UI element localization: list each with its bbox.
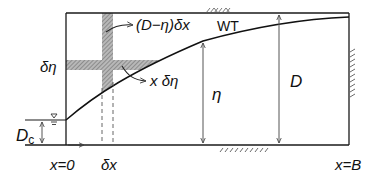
label-vertical-strip-expr: (D−η)δx	[136, 16, 190, 33]
label-x-end: x=B	[334, 156, 361, 173]
water-surface-icon	[51, 114, 57, 125]
label-water-table: WT	[217, 18, 239, 34]
impermeable-wall-hatch	[350, 49, 355, 97]
horizontal-strip	[66, 60, 186, 70]
label-critical-depth: Dc	[16, 126, 34, 147]
groundwater-diagram: δη (D−η)δx x δη WT η D Dc x=0 δx x=B	[0, 0, 380, 176]
vertical-strip	[102, 13, 113, 145]
impermeable-base-hatch	[220, 148, 268, 152]
label-eta: η	[212, 85, 221, 104]
label-delta-eta: δη	[40, 58, 57, 75]
ground-hatch-top	[206, 8, 230, 13]
label-horizontal-strip-expr: x δη	[149, 72, 178, 89]
label-delta-x: δx	[101, 156, 117, 173]
label-critical-depth-sub: c	[28, 133, 34, 147]
label-x-origin: x=0	[49, 156, 75, 173]
label-depth-d: D	[290, 72, 302, 91]
